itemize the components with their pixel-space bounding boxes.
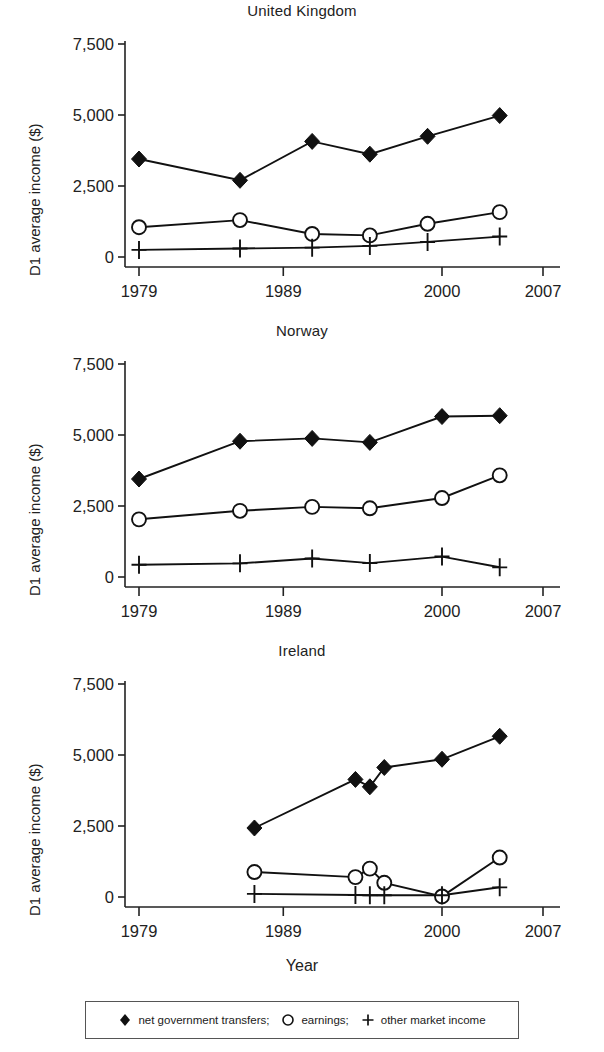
x-tick-label: 1989 (265, 922, 302, 940)
plot-area-uk: 02,5005,0007,5001979198920002007 (0, 0, 604, 320)
x-tick-label: 1989 (265, 282, 302, 300)
x-axis-label: Year (0, 957, 604, 975)
y-tick-label: 5,000 (73, 746, 114, 764)
panel-ireland: Ireland D1 average income ($) 02,5005,00… (0, 640, 604, 960)
chart-figure: United Kingdom D1 average income ($) 02,… (0, 0, 604, 1052)
x-tick-label: 2007 (525, 922, 562, 940)
open-circle-icon (281, 1013, 295, 1027)
y-tick-label: 0 (105, 888, 114, 906)
panel-united-kingdom: United Kingdom D1 average income ($) 02,… (0, 0, 604, 320)
x-tick-label: 2007 (525, 602, 562, 620)
x-tick-label: 2000 (424, 922, 461, 940)
plus-icon (361, 1013, 375, 1027)
legend-label: net government transfers; (138, 1014, 269, 1026)
y-tick-label: 7,500 (73, 355, 114, 373)
x-tick-label: 1979 (121, 922, 158, 940)
legend-label: other market income (381, 1014, 486, 1026)
filled-diamond-icon (118, 1013, 132, 1027)
y-tick-label: 5,000 (73, 426, 114, 444)
plot-area-norway: 02,5005,0007,5001979198920002007 (0, 320, 604, 640)
series-markers (132, 468, 507, 526)
legend-item-other-market-income: other market income (361, 1013, 486, 1027)
y-tick-label: 5,000 (73, 106, 114, 124)
y-tick-label: 7,500 (73, 35, 114, 53)
y-tick-label: 7,500 (73, 675, 114, 693)
x-tick-label: 1979 (121, 602, 158, 620)
x-tick-label: 2007 (525, 282, 562, 300)
legend-item-earnings: earnings; (281, 1013, 348, 1027)
y-tick-label: 0 (105, 248, 114, 266)
series-markers (132, 108, 508, 189)
x-tick-label: 2000 (424, 602, 461, 620)
legend-item-net-government-transfers: net government transfers; (118, 1013, 269, 1027)
y-tick-label: 0 (105, 568, 114, 586)
series-markers (132, 548, 508, 577)
x-tick-label: 2000 (424, 282, 461, 300)
x-tick-label: 1989 (265, 602, 302, 620)
y-tick-label: 2,500 (73, 497, 114, 515)
series-markers (247, 728, 507, 836)
y-tick-label: 2,500 (73, 817, 114, 835)
plot-area-ireland: 02,5005,0007,5001979198920002007 (0, 640, 604, 960)
legend: net government transfers; earnings; othe… (85, 1001, 519, 1039)
panel-norway: Norway D1 average income ($) 02,5005,000… (0, 320, 604, 640)
series-markers (132, 408, 508, 487)
y-tick-label: 2,500 (73, 177, 114, 195)
legend-label: earnings; (301, 1014, 348, 1026)
x-tick-label: 1979 (121, 282, 158, 300)
